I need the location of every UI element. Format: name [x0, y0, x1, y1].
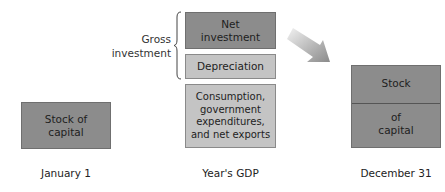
years-gdp-caption: Year's GDP: [185, 167, 276, 179]
december-caption: December 31: [351, 167, 441, 179]
depreciation-box: Depreciation: [185, 54, 276, 79]
stock-top-label: Stock: [351, 77, 441, 89]
net-investment-line1: Net: [201, 18, 260, 31]
consumption-line4: and net exports: [191, 129, 270, 142]
stock-bottom-line2: capital: [351, 124, 441, 137]
brace-icon: [174, 12, 181, 79]
consumption-box: Consumption, government expenditures, an…: [185, 84, 276, 148]
stock-bottom-label: of capital: [351, 111, 441, 137]
consumption-line2: government: [191, 104, 270, 117]
net-investment-line2: investment: [201, 31, 260, 44]
consumption-line1: Consumption,: [191, 91, 270, 104]
stock-bottom-line1: of: [351, 111, 441, 124]
net-investment-box: Net investment: [185, 12, 276, 49]
arrow-icon: [287, 28, 330, 62]
stock-divider: [352, 103, 440, 104]
consumption-line3: expenditures,: [191, 116, 270, 129]
depreciation-label: Depreciation: [197, 60, 264, 73]
